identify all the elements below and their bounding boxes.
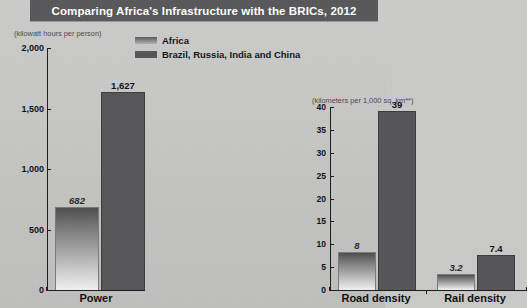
bar-value-rail-brics: 7.4 xyxy=(489,243,502,254)
density-ytick-label-10: 10 xyxy=(302,239,326,249)
density-ytick-20 xyxy=(331,199,334,200)
power-category-label: Power xyxy=(79,292,112,304)
power-ytick-label-500: 500 xyxy=(0,225,44,235)
bar-value-road-brics: 39 xyxy=(392,99,403,110)
density-ytick-label-35: 35 xyxy=(302,125,326,135)
density-ytick-label-25: 25 xyxy=(302,171,326,181)
density-ytick-label-40: 40 xyxy=(302,102,326,112)
bar-value-road-africa: 8 xyxy=(354,240,359,251)
power-axis-unit-label: (kilowatt hours per person) xyxy=(14,29,102,38)
density-category-label-rail: Rail density xyxy=(444,292,506,304)
panel-power: (kilowatt hours per person) 2,000 1,500 … xyxy=(0,0,152,308)
density-ytick-10 xyxy=(331,244,334,245)
bar-value-power-brics: 1,627 xyxy=(111,80,135,91)
density-ytick-5 xyxy=(331,267,334,268)
bar-power-africa: 682 xyxy=(55,207,99,291)
density-ytick-label-20: 20 xyxy=(302,194,326,204)
density-ytick-label-30: 30 xyxy=(302,148,326,158)
density-x-axis-group-divider xyxy=(426,290,427,294)
power-ytick-label-2000: 2,000 xyxy=(0,43,44,53)
bar-rail-africa: 3.2 xyxy=(437,274,475,290)
power-ytick-label-0: 0 xyxy=(0,285,44,295)
bar-value-power-africa: 682 xyxy=(69,195,85,206)
density-category-label-road: Road density xyxy=(341,292,410,304)
power-x-axis xyxy=(47,290,145,291)
density-y-axis xyxy=(330,107,331,290)
power-ytick-500 xyxy=(48,230,51,231)
bar-road-brics: 39 xyxy=(378,111,416,290)
power-ytick-2000 xyxy=(48,48,51,49)
bar-value-rail-africa: 3.2 xyxy=(449,262,462,273)
bar-road-africa: 8 xyxy=(338,252,376,290)
density-ytick-35 xyxy=(331,130,334,131)
density-ytick-label-5: 5 xyxy=(302,262,326,272)
density-ytick-15 xyxy=(331,221,334,222)
power-ytick-1000 xyxy=(48,169,51,170)
power-y-axis xyxy=(47,48,48,290)
power-x-axis-cap-left xyxy=(46,287,47,291)
power-ytick-label-1000: 1,000 xyxy=(0,164,44,174)
density-x-axis-cap-left xyxy=(329,287,330,291)
power-ytick-1500 xyxy=(48,109,51,110)
density-ytick-30 xyxy=(331,153,334,154)
density-ytick-25 xyxy=(331,176,334,177)
bar-power-brics: 1,627 xyxy=(101,92,145,290)
power-ytick-label-1500: 1,500 xyxy=(0,104,44,114)
density-ytick-label-15: 15 xyxy=(302,216,326,226)
density-ytick-label-0: 0 xyxy=(302,285,326,295)
density-x-axis xyxy=(330,290,527,291)
panel-density: (kilometers per 1,000 sq. km**) 40 35 30… xyxy=(152,0,385,308)
density-ytick-40 xyxy=(331,107,334,108)
bar-rail-brics: 7.4 xyxy=(477,255,515,290)
